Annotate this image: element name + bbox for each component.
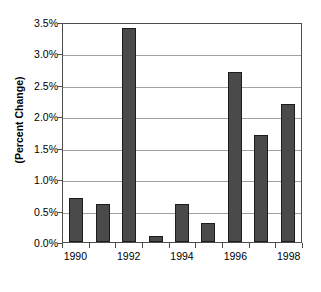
y-axis-tick-label: 1.5%	[34, 143, 58, 155]
x-axis-tick-mark	[142, 243, 143, 248]
bar-chart: (Percent Change) 0.0%0.5%1.0%1.5%2.0%2.5…	[0, 0, 321, 292]
bars-group	[63, 24, 301, 242]
bar-slot	[63, 24, 89, 242]
bar-slot	[222, 24, 248, 242]
x-axis-tick-mark	[249, 243, 250, 248]
bar-slot	[248, 24, 274, 242]
bar-1992	[122, 28, 136, 242]
x-axis-tick-label: 1992	[117, 250, 140, 262]
x-axis-tick-mark	[195, 243, 196, 248]
x-axis-tick-mark	[275, 243, 276, 248]
bar-slot	[142, 24, 168, 242]
y-axis-tick-label: 0.0%	[34, 237, 58, 249]
bar-slot	[275, 24, 301, 242]
bar-slot	[195, 24, 221, 242]
x-axis-tick-label: 1998	[277, 250, 300, 262]
x-axis-tick-mark	[62, 243, 63, 248]
y-axis-tick-label: 3.0%	[34, 48, 58, 60]
bar-1995	[201, 223, 215, 242]
bar-1990	[69, 198, 83, 242]
y-axis-tick-label: 0.5%	[34, 206, 58, 218]
x-axis-tick-label: 1996	[224, 250, 247, 262]
bar-slot	[169, 24, 195, 242]
bar-1994	[175, 204, 189, 242]
x-axis-ticks	[62, 243, 302, 248]
x-axis-tick-mark	[169, 243, 170, 248]
y-axis-tick-label: 1.0%	[34, 174, 58, 186]
bar-slot	[116, 24, 142, 242]
bar-1996	[228, 72, 242, 242]
x-axis-tick-label: 1994	[170, 250, 193, 262]
bar-1993	[149, 236, 163, 242]
x-axis-tick-mark	[222, 243, 223, 248]
x-axis-tick-label: 1990	[64, 250, 87, 262]
bar-slot	[89, 24, 115, 242]
bar-1998	[281, 104, 295, 242]
plot-area	[62, 23, 302, 243]
bar-1997	[254, 135, 268, 242]
x-axis-tick-labels: 19901992199419961998	[62, 250, 302, 270]
x-axis-tick-mark	[115, 243, 116, 248]
y-axis-tick-label: 2.5%	[34, 80, 58, 92]
y-axis-tick-label: 3.5%	[34, 17, 58, 29]
bar-1991	[96, 204, 110, 242]
x-axis-tick-mark	[89, 243, 90, 248]
x-axis-tick-mark	[302, 243, 303, 248]
y-axis-tick-labels: 0.0%0.5%1.0%1.5%2.0%2.5%3.0%3.5%	[22, 23, 58, 243]
y-axis-tick-label: 2.0%	[34, 111, 58, 123]
